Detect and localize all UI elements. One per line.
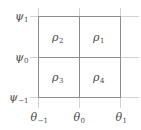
x-axis-symbol-right: θ bbox=[115, 111, 122, 124]
x-axis-subscript-right: 1 bbox=[123, 117, 127, 125]
y-axis-subscript-middle: 0 bbox=[24, 57, 28, 65]
gridline-extension-right-top bbox=[120, 8, 121, 16]
x-axis-tick-label-right: θ1 bbox=[103, 112, 139, 123]
y-axis-symbol-upper: ψ bbox=[15, 10, 24, 23]
x-axis-symbol-center: θ bbox=[73, 111, 80, 124]
y-axis-symbol-middle: ψ bbox=[15, 51, 24, 64]
grid-diagram-figure: ρ2 ρ1 ρ3 ρ4 ψ1 ψ0 ψ−1 θ−1 θ0 θ1 bbox=[0, 0, 141, 130]
x-axis-tick-label-center: θ0 bbox=[61, 112, 97, 123]
cell-subscript-bottom-left: 3 bbox=[59, 77, 63, 85]
cell-label-bottom-left: ρ3 bbox=[52, 72, 63, 83]
y-axis-subscript-lower: −1 bbox=[18, 97, 28, 105]
x-axis-subscript-center: 0 bbox=[81, 117, 85, 125]
gridline-extension-middle-right bbox=[121, 57, 139, 58]
cell-symbol-top-right: ρ bbox=[93, 31, 99, 44]
gridline-extension-right-bottom bbox=[120, 98, 121, 108]
cell-subscript-top-right: 1 bbox=[100, 37, 104, 45]
cell-label-top-right: ρ1 bbox=[93, 32, 104, 43]
y-axis-subscript-upper: 1 bbox=[24, 16, 28, 24]
y-axis-symbol-lower: ψ bbox=[9, 91, 18, 104]
cell-symbol-top-left: ρ bbox=[52, 31, 58, 44]
gridline-extension-left-top bbox=[38, 8, 39, 16]
x-axis-subscript-left: −1 bbox=[38, 117, 48, 125]
cell-symbol-bottom-right: ρ bbox=[93, 71, 99, 84]
x-axis-tick-label-left: θ−1 bbox=[21, 112, 57, 123]
gridline-extension-top-right bbox=[121, 16, 139, 17]
gridline-extension-bottom-right bbox=[121, 97, 139, 98]
cell-subscript-bottom-right: 4 bbox=[100, 77, 104, 85]
cell-label-bottom-right: ρ4 bbox=[93, 72, 104, 83]
gridline-extension-center-bottom bbox=[79, 98, 80, 108]
cell-subscript-top-left: 2 bbox=[59, 37, 63, 45]
divider-vertical bbox=[79, 16, 80, 98]
y-axis-tick-label-middle: ψ0 bbox=[0, 52, 28, 63]
gridline-extension-center-top bbox=[79, 8, 80, 16]
gridline-extension-left-bottom bbox=[38, 98, 39, 108]
x-axis-symbol-left: θ bbox=[31, 111, 38, 124]
cell-symbol-bottom-left: ρ bbox=[52, 71, 58, 84]
cell-label-top-left: ρ2 bbox=[52, 32, 63, 43]
y-axis-tick-label-lower: ψ−1 bbox=[0, 92, 28, 103]
y-axis-tick-label-upper: ψ1 bbox=[0, 11, 28, 22]
